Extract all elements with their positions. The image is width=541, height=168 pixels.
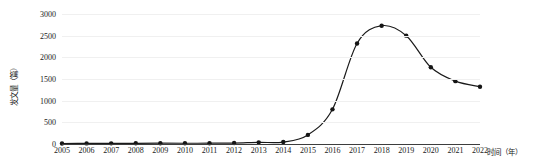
y-axis-tick-label: 500 [44, 118, 56, 127]
y-axis-tick-label: 2000 [40, 53, 56, 62]
gridline [62, 57, 480, 58]
data-point [429, 65, 433, 69]
data-point [330, 107, 334, 111]
gridline [62, 79, 480, 80]
x-axis-tick-label: 2008 [128, 146, 144, 155]
x-axis-tick-label: 2011 [202, 146, 218, 155]
y-axis-title-label: 发文量（篇） [8, 63, 19, 105]
x-axis-tick-label: 2015 [300, 146, 316, 155]
gridline [62, 101, 480, 102]
x-axis-tick-label: 2014 [275, 146, 291, 155]
data-point [355, 41, 359, 45]
series-path [62, 25, 480, 143]
y-axis-tick-label: 1000 [40, 96, 56, 105]
gridline [62, 36, 480, 37]
x-axis-tick-label: 2018 [374, 146, 390, 155]
x-axis-line [62, 144, 480, 145]
x-axis-tick-label: 2017 [349, 146, 365, 155]
x-axis-tick-labels: 2005200620072008200920102011201220132014… [62, 146, 480, 160]
x-axis-tick-label: 2020 [423, 146, 439, 155]
data-point [379, 24, 383, 28]
x-axis-tick-label: 2016 [324, 146, 340, 155]
x-axis-tick-label: 2013 [251, 146, 267, 155]
x-axis-tick-label: 2005 [54, 146, 70, 155]
x-axis-tick-label: 2021 [447, 146, 463, 155]
y-axis-tick-labels: 050010001500200025003000 [20, 0, 58, 168]
gridline [62, 122, 480, 123]
y-axis-tick-label: 3000 [40, 10, 56, 19]
y-axis-tick-label: 1500 [40, 75, 56, 84]
x-axis-title: 时间（年） [487, 146, 522, 157]
line-chart: 发文量（篇） 050010001500200025003000 20052006… [0, 0, 541, 168]
x-axis-tick-label: 2022 [472, 146, 488, 155]
plot-area [62, 14, 480, 144]
x-axis-tick-label: 2007 [103, 146, 119, 155]
y-axis-tick-label: 2500 [40, 31, 56, 40]
series-points [60, 24, 482, 146]
x-axis-tick-label: 2019 [398, 146, 414, 155]
data-point [306, 133, 310, 137]
data-point [478, 85, 482, 89]
gridline [62, 14, 480, 15]
x-axis-tick-label: 2006 [79, 146, 95, 155]
x-axis-tick-label: 2009 [152, 146, 168, 155]
y-axis-title: 发文量（篇） [6, 0, 20, 168]
x-axis-tick-label: 2012 [226, 146, 242, 155]
x-axis-tick-label: 2010 [177, 146, 193, 155]
